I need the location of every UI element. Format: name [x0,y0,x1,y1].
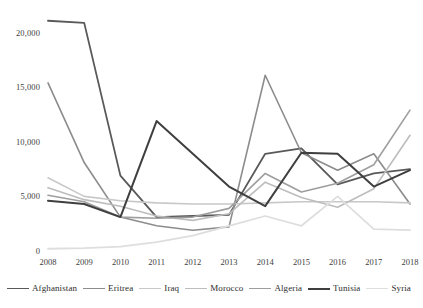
legend-label: Iraq [164,283,179,294]
legend-label: Algeria [274,283,302,294]
legend-item-iraq[interactable]: Iraq [139,283,179,294]
legend-item-afghanistan[interactable]: Afghanistan [7,283,77,294]
legend-item-morocco[interactable]: Morocco [185,283,243,294]
legend-label: Morocco [210,283,243,294]
x-axis-tick: 2012 [173,257,213,267]
x-axis-tick: 2009 [64,257,104,267]
legend-swatch-icon [83,288,105,289]
legend-label: Eritrea [108,283,133,294]
legend-swatch-icon [308,288,330,290]
legend-item-algeria[interactable]: Algeria [249,283,302,294]
legend-swatch-icon [366,288,388,289]
x-axis-tick: 2013 [209,257,249,267]
legend-swatch-icon [185,288,207,289]
chart-legend: AfghanistanEritreaIraqMoroccoAlgeriaTuni… [0,283,418,294]
x-axis-tick: 2014 [245,257,285,267]
x-axis-tick: 2017 [354,257,394,267]
x-axis-labels: 2008200920102011201220132014201520162017… [48,257,410,271]
legend-swatch-icon [7,288,29,289]
legend-label: Afghanistan [32,283,77,294]
legend-label: Syria [391,283,411,294]
x-axis-tick: 2008 [28,257,68,267]
legend-item-syria[interactable]: Syria [366,283,411,294]
legend-label: Tunisia [333,283,360,294]
legend-item-tunisia[interactable]: Tunisia [308,283,360,294]
x-axis-tick: 2010 [100,257,140,267]
legend-swatch-icon [249,288,271,289]
x-axis-tick: 2016 [318,257,358,267]
x-axis-tick: 2011 [137,257,177,267]
x-axis-tick: 2015 [281,257,321,267]
legend-item-eritrea[interactable]: Eritrea [83,283,133,294]
x-axis-tick: 2018 [390,257,423,267]
legend-swatch-icon [139,288,161,289]
